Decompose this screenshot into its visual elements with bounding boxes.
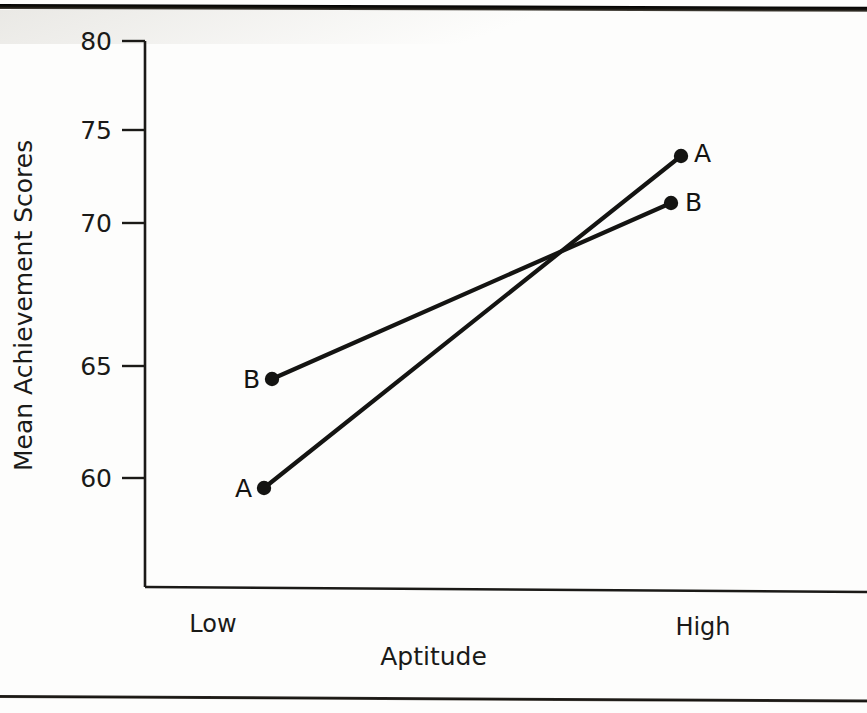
y-tick-label-70: 70 — [52, 209, 112, 238]
point-label-b-low: B — [243, 365, 260, 394]
series-a-point-high — [674, 149, 688, 163]
series-b-point-high — [664, 196, 678, 210]
x-axis-title: Aptitude — [0, 642, 867, 671]
axis-lines — [145, 41, 867, 592]
series-a — [257, 149, 688, 495]
series-a-line — [264, 156, 681, 488]
series-b — [265, 196, 678, 386]
y-tick-label-75: 75 — [52, 116, 112, 145]
x-tick-label-low: Low — [153, 610, 273, 638]
point-label-b-high: B — [685, 188, 702, 217]
series-b-point-low — [265, 372, 279, 386]
y-tick-label-65: 65 — [52, 352, 112, 381]
y-axis-ticks — [122, 41, 145, 478]
y-axis-title: Mean Achievement Scores — [9, 140, 38, 471]
point-label-a-low: A — [235, 474, 252, 503]
series-b-line — [272, 203, 671, 379]
chart-plot-area — [0, 0, 867, 713]
y-tick-label-60: 60 — [52, 464, 112, 493]
point-label-a-high: A — [694, 139, 711, 168]
line-chart-figure: 80 75 70 65 60 Mean Achievement Scores L… — [0, 0, 867, 713]
series-a-point-low — [257, 481, 271, 495]
y-tick-label-80: 80 — [52, 27, 112, 56]
x-axis-line — [145, 587, 867, 592]
x-tick-label-high: High — [643, 613, 763, 641]
